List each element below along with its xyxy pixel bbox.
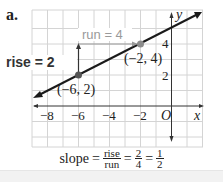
point-neg2-4 xyxy=(137,41,144,48)
formula-equals-2: = xyxy=(124,151,132,167)
x-axis-label: x xyxy=(193,108,201,123)
x-tick-neg8: −8 xyxy=(40,108,54,123)
y-axis-arrow-down-icon xyxy=(170,136,174,142)
slope-formula: slope = rise run = 2 4 = 1 2 xyxy=(0,148,223,169)
formula-lhs: slope xyxy=(59,151,89,167)
y-tick-4: 4 xyxy=(162,36,169,51)
rise-label: rise = 2 xyxy=(6,54,55,70)
bottom-strip xyxy=(0,170,223,182)
y-axis-arrow-up-icon xyxy=(170,12,174,18)
fraction-denominator: 4 xyxy=(135,159,143,169)
fraction-rise-run: rise run xyxy=(103,148,121,169)
x-axis-arrow-left-icon xyxy=(33,104,38,108)
x-tick-neg4: −4 xyxy=(102,108,116,123)
coordinate-graph: run = 4 rise = 2 (−6, 2) (−2, 4) −8 −6 −… xyxy=(0,0,223,170)
run-label: run = 4 xyxy=(82,27,123,42)
formula-equals-3: = xyxy=(145,151,153,167)
fraction-1-2: 1 2 xyxy=(156,148,164,169)
fraction-denominator: 2 xyxy=(156,159,164,169)
line-arrow-left-icon xyxy=(33,91,43,98)
fraction-denominator: run xyxy=(103,159,120,169)
point-label-neg6-2: (−6, 2) xyxy=(57,82,96,98)
y-tick-2: 2 xyxy=(162,68,169,83)
point-neg6-2 xyxy=(75,72,82,79)
figure-panel: a. xyxy=(0,0,223,170)
fraction-2-4: 2 4 xyxy=(135,148,143,169)
formula-equals-1: = xyxy=(92,151,100,167)
point-label-neg2-4: (−2, 4) xyxy=(124,51,163,67)
x-tick-neg6: −6 xyxy=(71,108,85,123)
y-axis-label: y xyxy=(174,7,183,22)
x-tick-neg2: −2 xyxy=(133,108,147,123)
origin-label: O xyxy=(161,108,171,123)
